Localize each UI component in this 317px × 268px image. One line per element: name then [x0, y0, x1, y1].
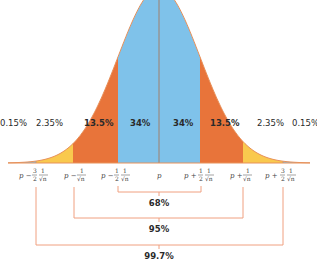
- tick-prefix: p +: [230, 172, 243, 180]
- frac-den: √n: [121, 175, 129, 182]
- frac-num: 1: [246, 167, 250, 174]
- tick-prefix: p −: [19, 172, 32, 180]
- tick-p-plus-1: p + 1 √n: [230, 167, 252, 182]
- tick-p-plus-half: p + 1 2 1 √n: [184, 167, 214, 182]
- bracket-95-label: 95%: [149, 224, 170, 234]
- frac-num: 3: [281, 167, 285, 174]
- frac-den: √n: [243, 175, 251, 182]
- frac-num: 1: [80, 167, 84, 174]
- frac-den: √n: [287, 175, 295, 182]
- bracket-68: [118, 186, 201, 196]
- frac-num: 1: [289, 167, 293, 174]
- tick-prefix: p +: [265, 172, 278, 180]
- tick-p-minus-half: p − 1 2 1 √n: [101, 167, 130, 182]
- label-yellow-left: 2.35%: [36, 118, 63, 128]
- band-blue-left: [118, 0, 159, 163]
- frac-den: √n: [77, 175, 85, 182]
- tick-mean: p: [157, 172, 162, 180]
- tick-prefix: p −: [101, 172, 114, 180]
- tick-p-minus-3half: p − 3 2 1 √n: [19, 167, 48, 182]
- frac-den: 2: [33, 175, 37, 182]
- frac-den: 2: [115, 175, 119, 182]
- frac-num: 1: [123, 167, 127, 174]
- band-tail-left: [0, 0, 36, 163]
- band-tail-right: [283, 0, 317, 163]
- frac-num: 1: [115, 167, 119, 174]
- tick-p: p: [157, 172, 162, 180]
- tick-p-plus-3half: p + 3 2 1 √n: [265, 167, 296, 182]
- frac-num: 1: [41, 167, 45, 174]
- normal-distribution-chart: 0.15% 2.35% 13.5% 34% 34% 13.5% 2.35% 0.…: [0, 0, 317, 268]
- frac-den: √n: [39, 175, 47, 182]
- label-orange-left: 13.5%: [84, 118, 114, 128]
- frac-den: 2: [199, 175, 203, 182]
- frac-num: 1: [207, 167, 211, 174]
- bracket-997-label: 99.7%: [144, 251, 174, 261]
- label-blue-left: 34%: [130, 118, 151, 128]
- label-tail-right: 0.15%: [292, 118, 317, 128]
- tick-prefix: p −: [64, 172, 77, 180]
- frac-num: 1: [199, 167, 203, 174]
- frac-den: √n: [205, 175, 213, 182]
- label-blue-right: 34%: [173, 118, 194, 128]
- band-yellow-left: [36, 0, 73, 163]
- frac-den: 2: [281, 175, 285, 182]
- band-orange-right: [200, 0, 243, 163]
- label-orange-right: 13.5%: [210, 118, 240, 128]
- tick-prefix: p +: [184, 172, 197, 180]
- bracket-68-label: 68%: [149, 198, 170, 208]
- band-yellow-right: [243, 0, 283, 163]
- label-tail-left: 0.15%: [0, 118, 27, 128]
- label-yellow-right: 2.35%: [257, 118, 284, 128]
- frac-num: 3: [33, 167, 37, 174]
- band-blue-right: [159, 0, 200, 163]
- tick-p-minus-1: p − 1 √n: [64, 167, 86, 182]
- band-orange-left: [73, 0, 118, 163]
- bell-curve-fill: [0, 0, 317, 163]
